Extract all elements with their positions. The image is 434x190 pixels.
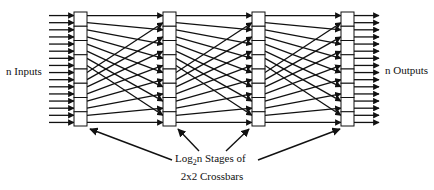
crossbar-switch [252,83,265,97]
shuffle-wire [176,23,252,73]
crossbar-switch [252,98,265,112]
crossbar-switch [74,83,87,97]
outputs-label: n Outputs [385,64,428,76]
crossbar-switch [74,26,87,40]
crossbar-switch [74,12,87,26]
inputs-label: n Inputs [6,65,42,77]
shuffle-wire [87,30,163,44]
crossbar-switch [341,26,354,40]
shuffle-wire [265,108,341,115]
interconnect-wires [49,16,379,123]
shuffle-wire [265,30,341,44]
crossbar-switch [341,41,354,55]
stage-pointer-arrow [226,129,249,151]
crossbar-switch [252,26,265,40]
caption-line-1: Log2n Stages of [175,152,246,167]
crossbar-switch [341,55,354,69]
crossbar-switch [341,69,354,83]
shuffle-wire [87,94,163,108]
crossbar-switch [163,98,176,112]
crossbar-switch [163,55,176,69]
crossbar-switch [163,26,176,40]
shuffle-wire [87,37,163,80]
shuffle-wire [176,94,252,108]
shuffle-wire [87,80,163,101]
shuffle-wire [176,80,252,101]
crossbar-switch [74,98,87,112]
crossbar-switch [252,69,265,83]
crossbar-switch [74,112,87,126]
shuffle-wire [176,108,252,115]
crossbar-switch [341,83,354,97]
shuffle-wire [265,23,341,30]
crossbar-switch [74,55,87,69]
shuffle-wire [87,108,163,115]
crossbar-switch [252,55,265,69]
crossbar-switch [252,41,265,55]
crossbar-switch [341,98,354,112]
shuffle-wire [265,37,341,80]
crossbar-switch [163,112,176,126]
crossbar-switch [163,41,176,55]
crossbar-switch [252,112,265,126]
shuffle-wire [87,23,163,73]
crossbar-switch [163,12,176,26]
stage-pointer-arrow [90,129,172,160]
shuffle-wire [176,37,252,80]
stage-pointer-arrow [258,129,340,160]
caption-line-2: 2x2 Crossbars [181,170,244,182]
shuffle-wire [265,80,341,101]
crossbar-switch [252,12,265,26]
shuffle-wire [265,94,341,108]
shuffle-wire [265,23,341,73]
shuffle-wire [176,30,252,44]
omega-network-diagram: n Inputs n Outputs Log2n Stages of 2x2 C… [0,0,434,190]
shuffle-wire [176,23,252,30]
crossbar-switch [163,69,176,83]
crossbar-switch [341,12,354,26]
shuffle-wire [87,23,163,30]
stage-pointer-arrow [178,129,199,151]
crossbar-switch [341,112,354,126]
crossbar-switch [163,83,176,97]
crossbar-switch [74,41,87,55]
crossbar-switch [74,69,87,83]
